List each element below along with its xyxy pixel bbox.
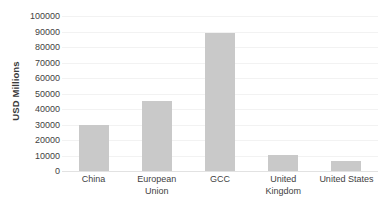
bar[interactable] [205,33,235,171]
bar-slot [315,16,378,171]
bar[interactable] [331,161,361,171]
bar[interactable] [142,101,172,171]
bar-slot [62,16,125,171]
plot-area [62,16,378,171]
y-axis-tick-label: 40000 [14,105,60,114]
x-axis-category-label: European Union [125,174,188,197]
y-axis-tick-label: 0 [14,167,60,176]
y-axis-tick-label: 50000 [14,89,60,98]
bar-chart: USD Millions 100000900008000070000600005… [0,0,381,210]
x-axis-category-label: China [62,174,125,186]
y-axis-tick-label: 70000 [14,58,60,67]
bar[interactable] [79,125,109,172]
bar-slot [188,16,251,171]
x-axis-category-labels: ChinaEuropean UnionGCCUnited KingdomUnit… [62,174,378,208]
axis-baseline [62,171,378,172]
y-axis-tick-label: 90000 [14,27,60,36]
y-axis-tick-label: 100000 [14,12,60,21]
x-axis-category-label: GCC [188,174,251,186]
y-axis-tick-label: 80000 [14,43,60,52]
bar-slot [125,16,188,171]
y-axis-tick-label: 20000 [14,136,60,145]
x-axis-category-label: United Kingdom [252,174,315,197]
x-axis-category-label: United States [315,174,378,186]
y-axis-tick-labels: 1000009000080000700006000050000400003000… [14,16,60,171]
y-axis-tick-label: 10000 [14,151,60,160]
bar[interactable] [268,155,298,171]
bar-slot [252,16,315,171]
y-axis-tick-label: 60000 [14,74,60,83]
bars-layer [62,16,378,171]
y-axis-tick-label: 30000 [14,120,60,129]
